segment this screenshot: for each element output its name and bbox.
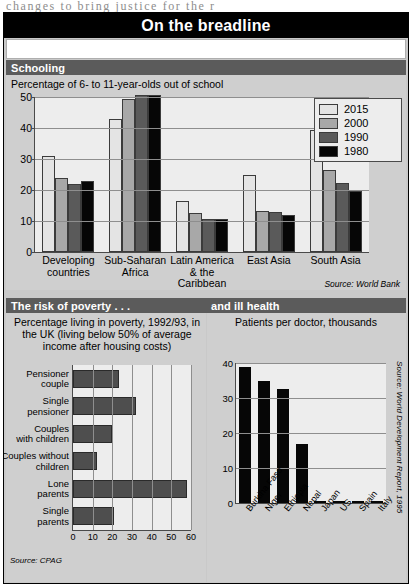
gridline (35, 190, 369, 191)
y-axis-tick-mark (32, 252, 35, 253)
gridline (35, 252, 369, 253)
y-axis-tick-label: 40 (20, 122, 32, 134)
gridline (132, 365, 133, 530)
x-axis-label-slot: US (329, 505, 348, 549)
x-axis-tick-label: 30 (127, 532, 137, 542)
x-axis-tick-label: 50 (166, 532, 176, 542)
x-axis-tick-label: 0 (70, 532, 75, 542)
bar-row-label: Coupleswith children (3, 423, 69, 444)
bar-2000[interactable] (122, 99, 135, 252)
bar-2015[interactable] (109, 119, 122, 252)
bar-row-label: Pensionercouple (3, 368, 69, 389)
chart-schooling: Percentage of 6- to 11-year-olds out of … (6, 75, 406, 290)
bar-2000[interactable] (256, 211, 269, 252)
y-axis-tick-label: 30 (20, 153, 32, 165)
bar-2000[interactable] (323, 170, 336, 252)
y-axis-tick-label: 10 (222, 463, 233, 474)
gridline (171, 365, 172, 530)
section-band-poverty: The risk of poverty . . . (6, 298, 206, 313)
y-axis-tick-label: 30 (222, 393, 233, 404)
legend-swatch-2000 (319, 118, 338, 129)
legend-item: 2000 (319, 116, 397, 130)
bar-1980[interactable] (148, 95, 161, 252)
chart-poverty-plot-area: PensionercoupleSinglepensionerCoupleswit… (72, 365, 191, 531)
bar-group (235, 97, 302, 252)
chart-health-plot-area: 010203040 (235, 363, 386, 504)
gridline (112, 365, 113, 530)
section-band-schooling: Schooling (6, 60, 406, 75)
gridline (236, 398, 386, 399)
x-axis-tick-label: 20 (107, 532, 117, 542)
y-axis-tick-mark (32, 221, 35, 222)
x-axis-category-label: Developingcountries (35, 255, 102, 290)
legend-swatch-1990 (319, 132, 338, 143)
gridline (93, 365, 94, 530)
chart-poverty-source: Source: CPAG (10, 556, 62, 565)
chart-schooling-subtitle: Percentage of 6- to 11-year-olds out of … (11, 78, 391, 90)
bar[interactable] (239, 367, 251, 504)
bar-1990[interactable] (202, 219, 215, 252)
chart-health-subtitle: Patients per doctor, thousands (213, 316, 399, 328)
masthead-title-bar: On the breadline (4, 13, 408, 38)
y-axis-tick-mark (32, 128, 35, 129)
legend-item: 2015 (319, 102, 397, 116)
gridline (35, 221, 369, 222)
bar-row-label: Loneparents (3, 478, 69, 499)
chart-schooling-legend: 2015 2000 1990 1980 (314, 98, 402, 162)
bar-1990[interactable] (336, 183, 349, 252)
bar[interactable] (73, 397, 136, 415)
x-axis-label-slot: Burkina Faso (235, 505, 254, 549)
x-axis-tick-label: 40 (147, 532, 157, 542)
masthead-white-strip (6, 39, 406, 59)
y-axis-tick-label: 10 (20, 215, 32, 227)
y-axis-tick-mark (32, 97, 35, 98)
legend-label-2000: 2000 (344, 117, 368, 129)
legend-item: 1990 (319, 130, 397, 144)
gridline (152, 365, 153, 530)
x-axis-category-label: Sub-SaharanAfrica (102, 255, 169, 290)
legend-label-1980: 1980 (344, 145, 368, 157)
x-axis-label-slot: Spain (348, 505, 367, 549)
y-axis-tick-mark (32, 159, 35, 160)
bar-2000[interactable] (189, 213, 202, 252)
bar-1990[interactable] (68, 184, 81, 252)
section-band-label-health: and ill health (211, 300, 280, 312)
gridline (236, 468, 386, 469)
bar-1980[interactable] (215, 219, 228, 252)
bar-group (102, 97, 169, 252)
x-axis-tick-label: 60 (186, 532, 196, 542)
bar-2015[interactable] (176, 201, 189, 252)
section-band-health: and ill health (206, 298, 406, 313)
bar-1980[interactable] (81, 181, 94, 252)
legend-label-2015: 2015 (344, 103, 368, 115)
bar-group (35, 97, 102, 252)
bar-row-label: Couples withoutchildren (3, 451, 69, 472)
chart-health: Patients per doctor, thousands 010203040… (207, 313, 406, 582)
section-band-label-poverty: The risk of poverty . . . (11, 300, 130, 312)
bar-1990[interactable] (269, 212, 282, 252)
bar-row-label: Singleparents (3, 506, 69, 527)
x-axis-label-slot: Japan (310, 505, 329, 549)
chart-poverty-subtitle: Percentage living in poverty, 1992/93, i… (14, 316, 200, 352)
y-axis-tick-label: 20 (222, 428, 233, 439)
chart-health-source: Source: World Development Report, 1995 (395, 361, 404, 561)
section-band-label-schooling: Schooling (11, 62, 65, 74)
gridline (191, 365, 192, 530)
x-axis-label-slot: Nepal (291, 505, 310, 549)
gridline (236, 433, 386, 434)
bar-2015[interactable] (42, 156, 55, 252)
y-axis-tick-label: 40 (222, 358, 233, 369)
bar-1990[interactable] (135, 95, 148, 252)
chart-health-x-axis-labels: Burkina FasoNigerEthiopiaNepalJapanUSSpa… (235, 505, 385, 549)
legend-swatch-1980 (319, 146, 338, 157)
chart-poverty: Percentage living in poverty, 1992/93, i… (6, 313, 206, 582)
bar[interactable] (73, 480, 187, 498)
bar-2015[interactable] (243, 175, 256, 253)
bar[interactable] (277, 389, 289, 503)
y-axis-tick-label: 0 (228, 498, 233, 509)
gridline (236, 363, 386, 364)
legend-item: 1980 (319, 144, 397, 158)
chart-schooling-source: Source: World Bank (324, 279, 400, 289)
y-axis-tick-label: 20 (20, 184, 32, 196)
page-title: On the breadline (141, 17, 270, 35)
